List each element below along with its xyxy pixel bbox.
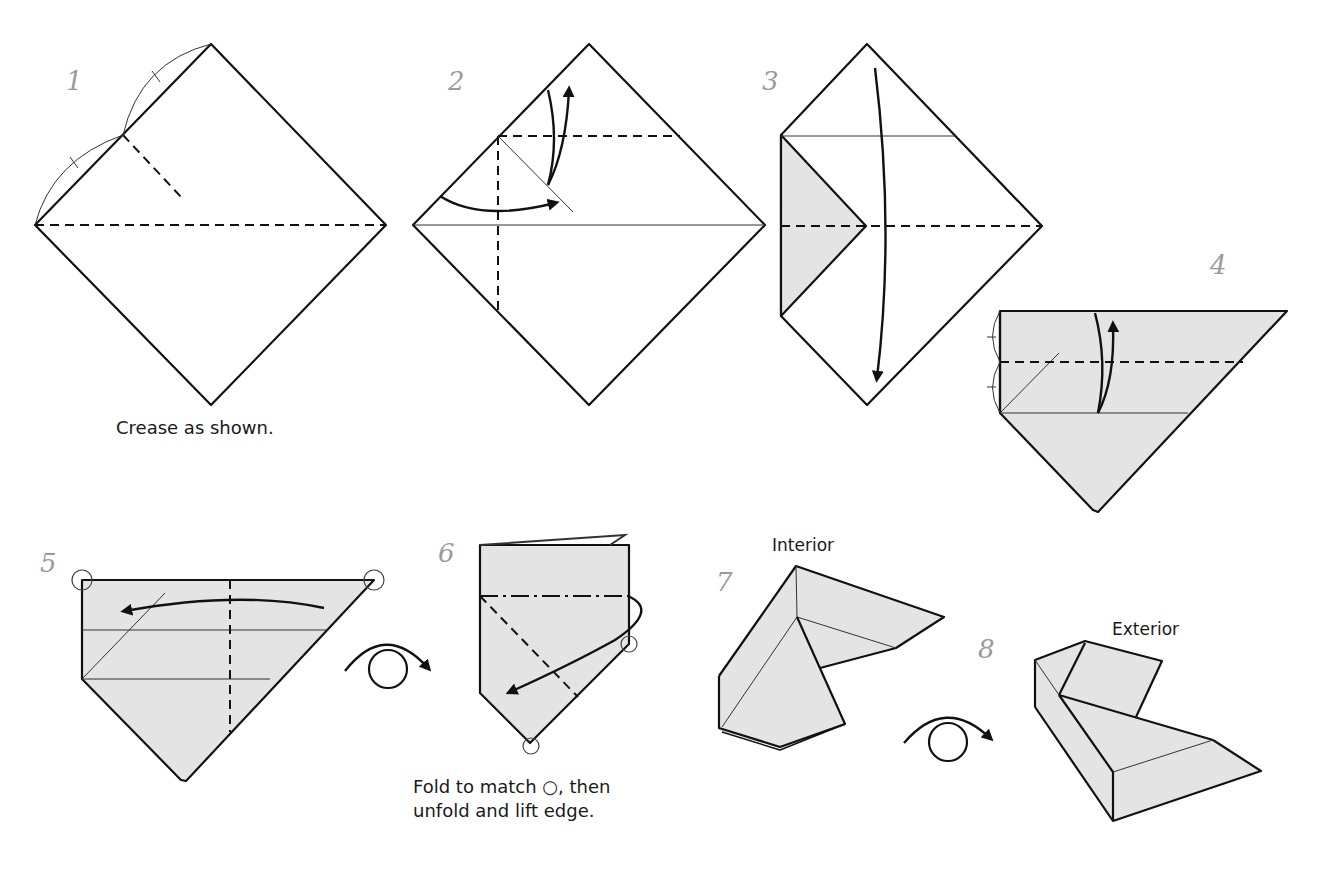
turn-over-icon-2 xyxy=(904,718,990,761)
step-8-model xyxy=(1035,641,1261,821)
step-2-paper xyxy=(413,44,765,405)
diagram-canvas xyxy=(0,0,1322,869)
turn-over-icon xyxy=(345,645,428,688)
origami-diagram: 1 2 3 4 5 6 7 8 Crease as shown. Fold to… xyxy=(0,0,1322,869)
step-5-paper xyxy=(72,570,384,781)
step-4-paper xyxy=(987,311,1287,512)
step-7-model xyxy=(718,566,944,750)
step-1-paper xyxy=(35,44,386,405)
step-6-paper xyxy=(480,535,641,754)
